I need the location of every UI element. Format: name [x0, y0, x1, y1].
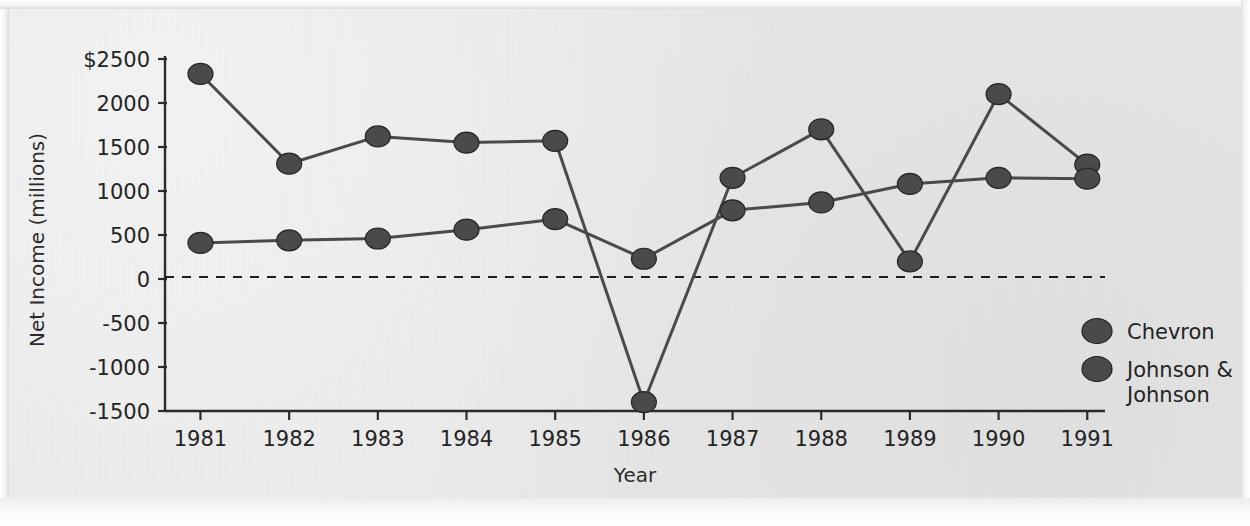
y-tick-label: 1500: [97, 136, 150, 160]
data-point-marker: [897, 251, 922, 272]
y-tick-label: $2500: [83, 48, 150, 72]
data-point-marker: [720, 200, 745, 221]
data-point-marker: [454, 219, 479, 240]
legend-marker-johnson-and-johnson: [1082, 357, 1112, 382]
data-point-marker: [188, 63, 213, 84]
data-point-marker: [809, 119, 834, 140]
chart-page: $25002000150010005000-500-1000-1500 1981…: [0, 0, 1250, 526]
x-axis-title: Year: [613, 463, 657, 487]
x-tick-label: 1991: [1061, 427, 1114, 451]
y-tick-label: 0: [137, 268, 150, 292]
x-tick-label: 1985: [528, 427, 581, 451]
legend-label-johnson-and-johnson-line2: Johnson: [1125, 383, 1210, 407]
data-point-marker: [631, 392, 656, 413]
data-point-marker: [897, 173, 922, 194]
y-axis-title: Net Income (millions): [25, 133, 49, 347]
x-tick-label: 1989: [883, 427, 936, 451]
y-tick-label: 500: [110, 224, 150, 248]
data-point-marker: [543, 209, 568, 230]
data-point-marker: [986, 167, 1011, 188]
data-point-marker: [809, 192, 834, 213]
x-tick-label: 1982: [262, 427, 315, 451]
series-line-johnson-johnson: [200, 178, 1087, 259]
data-point-marker: [277, 153, 302, 174]
y-tick-label: 2000: [97, 92, 150, 116]
data-point-marker: [277, 230, 302, 251]
legend-marker-chevron: [1082, 319, 1112, 344]
x-tick-label: 1981: [174, 427, 227, 451]
y-tick-label: -1500: [89, 400, 150, 424]
data-point-marker: [365, 126, 390, 147]
x-tick-label: 1984: [440, 427, 493, 451]
x-axis-tick-labels: 1981198219831984198519861987198819891990…: [174, 427, 1114, 451]
data-point-marker: [631, 248, 656, 269]
data-point-marker: [543, 130, 568, 151]
series-polylines: [200, 74, 1087, 402]
x-tick-label: 1983: [351, 427, 404, 451]
y-tick-label: -1000: [89, 356, 150, 380]
data-point-marker: [720, 167, 745, 188]
x-tick-label: 1986: [617, 427, 670, 451]
x-tick-label: 1988: [794, 427, 847, 451]
legend-label-chevron: Chevron: [1127, 320, 1215, 344]
y-axis-tick-labels: $25002000150010005000-500-1000-1500: [83, 48, 150, 424]
data-point-marker: [365, 228, 390, 249]
line-chart: $25002000150010005000-500-1000-1500 1981…: [0, 0, 1250, 526]
y-tick-label: -500: [102, 312, 150, 336]
x-tick-label: 1987: [706, 427, 759, 451]
data-point-marker: [1075, 168, 1100, 189]
y-tick-label: 1000: [97, 180, 150, 204]
data-point-marker: [188, 232, 213, 253]
x-tick-label: 1990: [972, 427, 1025, 451]
legend-label-johnson-and-johnson-line1: Johnson &: [1125, 358, 1233, 382]
data-point-marker: [986, 84, 1011, 105]
data-point-marker: [454, 132, 479, 153]
chart-legend: Chevron Johnson & Johnson: [1082, 319, 1233, 408]
